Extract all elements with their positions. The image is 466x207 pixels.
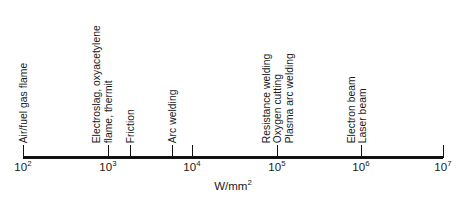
annotation-label: Resistance welding xyxy=(262,53,272,143)
tick-label-mantissa: 10 xyxy=(14,161,27,173)
axis-tick-1e3 xyxy=(108,145,109,158)
axis-tick-label-1e4: 104 xyxy=(183,162,200,174)
tick-label-mantissa: 10 xyxy=(268,161,281,173)
axis-line xyxy=(23,156,443,159)
axis-title: W/mm2 xyxy=(0,181,466,193)
annotation-label: Plasma arc welding xyxy=(285,53,295,143)
axis-tick-label-1e3: 103 xyxy=(99,162,116,174)
tick-label-exponent: 5 xyxy=(281,159,285,168)
annotation-label: Laser beam xyxy=(358,88,368,143)
annotation-label: Electron beam xyxy=(347,76,357,143)
axis-title-text: W/mm xyxy=(214,180,247,192)
axis-tick-label-1e6: 106 xyxy=(352,162,369,174)
annotation-label: Oxygen cutting xyxy=(273,74,283,143)
annotation-label: Electroslag, oxyacetylene xyxy=(92,25,102,143)
axis-tick-1e4 xyxy=(192,145,193,158)
tick-label-exponent: 3 xyxy=(112,159,116,168)
tick-label-mantissa: 10 xyxy=(99,161,112,173)
annotation-label: Arc welding xyxy=(168,89,178,143)
power-density-axis-figure: Air/fuel gas flame Electroslag, oxyacety… xyxy=(0,0,466,207)
axis-title-exponent: 2 xyxy=(247,178,251,187)
axis-tick-1e2 xyxy=(23,145,24,158)
axis-tick-arc-welding xyxy=(172,145,173,158)
axis-tick-1e6 xyxy=(361,145,362,158)
tick-label-exponent: 6 xyxy=(365,159,369,168)
annotation-label: Air/fuel gas flame xyxy=(19,63,29,143)
annotation-label: flame, thermit xyxy=(104,80,114,143)
tick-label-exponent: 4 xyxy=(196,159,200,168)
annotation-label: Friction xyxy=(126,109,136,143)
tick-label-mantissa: 10 xyxy=(434,161,447,173)
axis-tick-label-1e2: 102 xyxy=(14,162,31,174)
axis-tick-1e5 xyxy=(277,145,278,158)
tick-label-exponent: 7 xyxy=(447,159,451,168)
tick-label-mantissa: 10 xyxy=(183,161,196,173)
axis-tick-label-1e5: 105 xyxy=(268,162,285,174)
axis-tick-friction xyxy=(130,145,131,158)
axis-tick-label-1e7: 107 xyxy=(434,162,451,174)
tick-label-mantissa: 10 xyxy=(352,161,365,173)
axis-tick-1e7 xyxy=(443,145,444,158)
tick-label-exponent: 2 xyxy=(27,159,31,168)
